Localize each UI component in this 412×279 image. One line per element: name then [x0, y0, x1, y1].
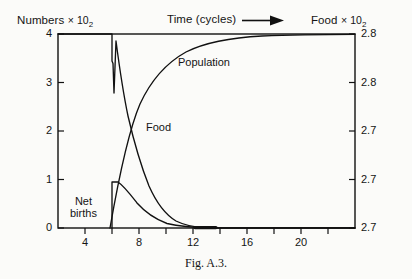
right-tick-label-2: 2.8: [361, 76, 395, 88]
curve-label-net-births-line2: births: [70, 207, 97, 219]
curve-label-population: Population: [178, 57, 230, 69]
plot-svg: [0, 0, 412, 279]
right-tick-label-5: 2.7: [361, 221, 395, 233]
left-tick-label-2: 2: [34, 124, 52, 136]
left-tick-label-4: 4: [34, 27, 52, 39]
x-tick-label-16: 16: [236, 236, 258, 248]
right-tick-label-3: 2.7: [361, 124, 395, 136]
right-tick-label-4: 2.7: [361, 173, 395, 185]
curve-label-food: Food: [146, 122, 171, 134]
figure-caption: Fig. A.3.: [0, 256, 412, 271]
right-axis-ticks: [349, 34, 355, 228]
curve-label-net-births: Net births: [70, 196, 97, 219]
left-axis-ticks: [58, 34, 64, 228]
x-tick-label-4: 4: [74, 236, 96, 248]
left-tick-label-0: 0: [34, 221, 52, 233]
x-tick-label-8: 8: [128, 236, 150, 248]
x-tick-label-20: 20: [290, 236, 312, 248]
left-tick-label-1: 1: [34, 173, 52, 185]
curve-label-net-births-line1: Net: [75, 195, 92, 207]
time-direction-arrow-icon: [242, 16, 284, 26]
curve-net-births: [112, 182, 355, 228]
right-tick-label-1: 2.8: [361, 27, 395, 39]
figure-container: Numbers × 102 Time (cycles) Food × 102: [0, 0, 412, 279]
left-tick-label-3: 3: [34, 76, 52, 88]
x-tick-label-12: 12: [182, 236, 204, 248]
